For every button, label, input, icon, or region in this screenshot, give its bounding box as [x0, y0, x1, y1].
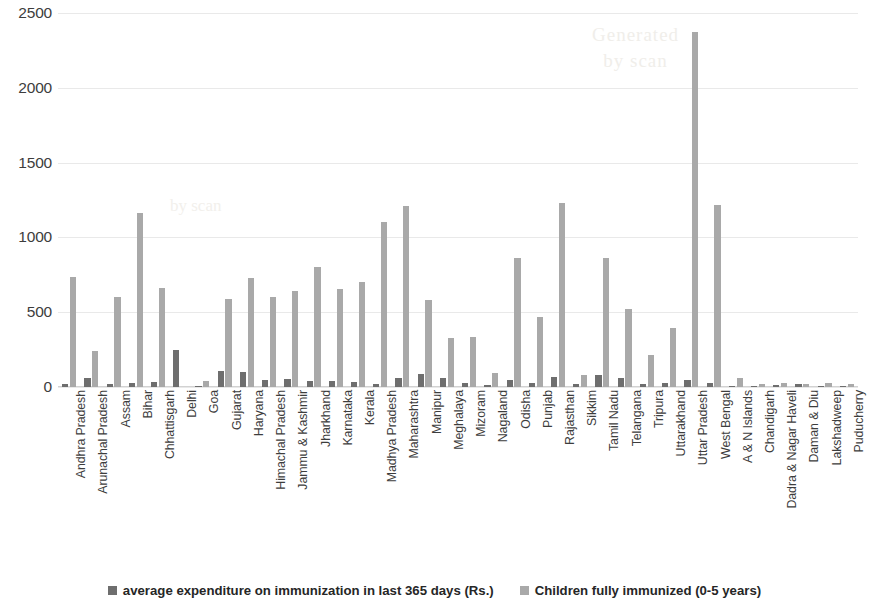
- x-tick-label: Punjab: [541, 390, 555, 428]
- bar-children-immunized: [803, 384, 809, 387]
- bar-children-immunized: [203, 381, 209, 387]
- bar-children-immunized: [425, 300, 431, 387]
- y-tick-label: 2000: [6, 79, 52, 97]
- bar-expenditure: [173, 350, 179, 387]
- x-tick-label: Manipur: [430, 390, 444, 434]
- x-tick-label: Himachal Pradesh: [274, 390, 288, 490]
- x-tick-label: Uttar Pradesh: [696, 390, 710, 465]
- x-tick-label: Puducherry: [852, 390, 866, 452]
- bar-expenditure: [351, 382, 357, 387]
- bar-group: [814, 13, 836, 387]
- bar-expenditure: [818, 386, 824, 388]
- bar-children-immunized: [314, 267, 320, 387]
- bar-expenditure: [773, 385, 779, 387]
- bar-expenditure: [218, 371, 224, 387]
- bar-children-immunized: [848, 384, 854, 387]
- bar-children-immunized: [781, 383, 787, 387]
- x-tick-label: Kerala: [363, 390, 377, 425]
- y-tick-label: 2500: [6, 4, 52, 22]
- x-tick-label: Meghalaya: [452, 390, 466, 450]
- x-tick-label: Bihar: [141, 390, 155, 418]
- bar-group: [725, 13, 747, 387]
- bar-children-immunized: [492, 373, 498, 387]
- x-tick-label: Andhra Pradesh: [74, 390, 88, 478]
- bar-children-immunized: [603, 258, 609, 387]
- bar-children-immunized: [114, 297, 120, 387]
- legend-label: average expenditure on immunization in l…: [123, 583, 494, 598]
- bar-expenditure: [262, 380, 268, 387]
- bar-children-immunized: [581, 375, 587, 387]
- legend-entry[interactable]: average expenditure on immunization in l…: [108, 583, 494, 598]
- x-tick-label: Lakshadweep: [830, 390, 844, 465]
- bar-expenditure: [418, 374, 424, 387]
- bar-group: [769, 13, 791, 387]
- bar-expenditure: [307, 381, 313, 387]
- bar-group: [636, 13, 658, 387]
- x-tick-label: Chandigarh: [763, 390, 777, 453]
- x-tick-label: West Bengal: [719, 390, 733, 459]
- y-tick-label: 1500: [6, 154, 52, 172]
- bar-group: [236, 13, 258, 387]
- bar-children-immunized: [403, 206, 409, 387]
- bar-children-immunized: [670, 328, 676, 387]
- bar-group: [591, 13, 613, 387]
- bar-group: [547, 13, 569, 387]
- bar-expenditure: [729, 386, 735, 388]
- x-tick-label: Delhi: [185, 390, 199, 418]
- bar-children-immunized: [270, 297, 276, 388]
- bar-children-immunized: [337, 289, 343, 387]
- bar-group: [369, 13, 391, 387]
- x-tick-label: Jammu & Kashmir: [296, 390, 310, 490]
- bar-expenditure: [707, 383, 713, 387]
- bar-expenditure: [129, 383, 135, 387]
- bar-children-immunized: [759, 384, 765, 387]
- bar-expenditure: [751, 386, 757, 388]
- bar-children-immunized: [159, 288, 165, 387]
- bar-expenditure: [151, 382, 157, 387]
- x-tick-label: Maharashtra: [407, 390, 421, 458]
- bar-group: [258, 13, 280, 387]
- bar-group: [747, 13, 769, 387]
- bar-children-immunized: [292, 291, 298, 387]
- bar-expenditure: [507, 380, 513, 387]
- bar-expenditure: [795, 384, 801, 387]
- bar-group: [836, 13, 858, 387]
- x-tick-label: Telangana: [630, 390, 644, 446]
- x-tick-label: Jharkhand: [319, 390, 333, 447]
- bar-expenditure: [107, 384, 113, 387]
- x-tick-label: Nagaland: [496, 390, 510, 442]
- y-tick-label: 1000: [6, 228, 52, 246]
- bar-children-immunized: [714, 205, 720, 387]
- bar-children-immunized: [448, 338, 454, 387]
- bar-expenditure: [62, 384, 68, 387]
- bar-group: [191, 13, 213, 387]
- bar-expenditure: [618, 378, 624, 387]
- bar-expenditure: [662, 383, 668, 387]
- bar-expenditure: [329, 381, 335, 387]
- bar-group: [702, 13, 724, 387]
- bar-group: [658, 13, 680, 387]
- legend-swatch-icon: [520, 586, 529, 595]
- bar-group: [569, 13, 591, 387]
- bar-expenditure: [462, 383, 468, 387]
- bar-expenditure: [551, 377, 557, 387]
- bar-group: [125, 13, 147, 387]
- bar-expenditure: [640, 384, 646, 387]
- x-tick-label: Goa: [207, 390, 221, 413]
- bar-group: [102, 13, 124, 387]
- bar-children-immunized: [737, 378, 743, 387]
- x-tick-label: Karnataka: [341, 390, 355, 446]
- bar-children-immunized: [92, 351, 98, 387]
- bar-expenditure: [573, 384, 579, 387]
- bar-expenditure: [529, 383, 535, 387]
- bar-group: [280, 13, 302, 387]
- bar-group: [502, 13, 524, 387]
- bar-group: [80, 13, 102, 387]
- bar-group: [458, 13, 480, 387]
- bar-expenditure: [684, 380, 690, 387]
- bar-children-immunized: [470, 337, 476, 387]
- x-tick-label: Sikkim: [585, 390, 599, 426]
- bar-group: [436, 13, 458, 387]
- legend-entry[interactable]: Children fully immunized (0-5 years): [520, 583, 761, 598]
- y-tick-label: 500: [6, 303, 52, 321]
